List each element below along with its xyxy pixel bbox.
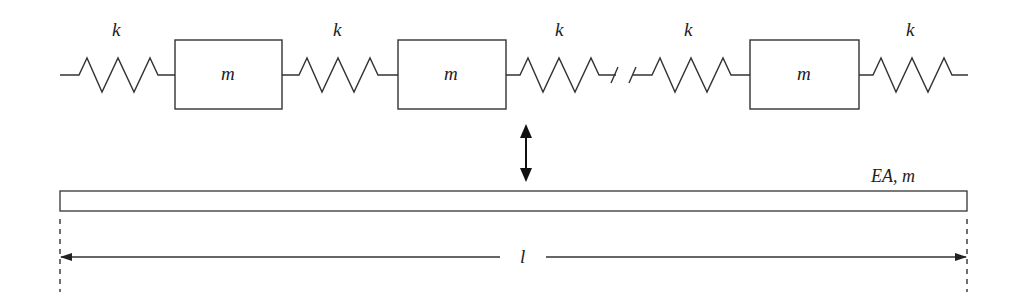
- spring-4: [633, 58, 750, 92]
- length-label: l: [520, 247, 525, 266]
- mass-2-label: m: [444, 64, 458, 83]
- axial-bar: [60, 191, 967, 211]
- spring-3-label: k: [555, 20, 563, 39]
- spring-4-label: k: [684, 20, 692, 39]
- spring-3: [506, 58, 616, 92]
- spring-2-label: k: [333, 20, 341, 39]
- bar-property-label: EA, m: [871, 167, 915, 185]
- diagram-canvas: [0, 0, 1020, 297]
- arrowhead-down-icon: [520, 168, 532, 182]
- spring-5-label: k: [906, 20, 914, 39]
- spring-1-label: k: [112, 20, 120, 39]
- spring-1: [60, 58, 175, 92]
- mass-3-label: m: [797, 64, 811, 83]
- mass-1-label: m: [221, 64, 235, 83]
- arrowhead-up-icon: [520, 124, 532, 138]
- spring-2: [282, 58, 398, 92]
- spring-5: [859, 58, 968, 92]
